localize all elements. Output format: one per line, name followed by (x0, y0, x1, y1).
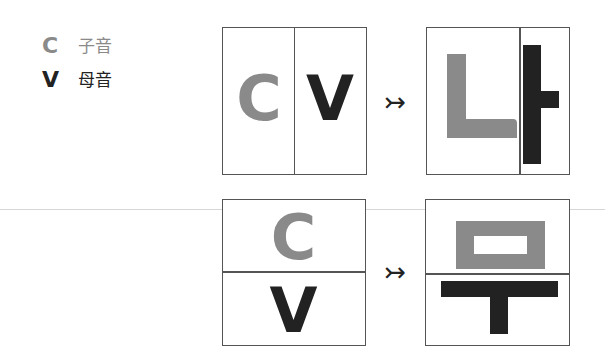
maps-to-arrow-icon: ↣ (375, 257, 415, 287)
syllable-na-output-box (426, 27, 570, 175)
cv-vertical-input-box: C V (222, 199, 366, 346)
box-divider (426, 273, 569, 275)
a-horizontal-stroke (541, 91, 559, 108)
syllable-mu-output-box (425, 199, 570, 346)
legend-item-consonant: C 子音 (40, 33, 130, 59)
mieum-inner-counter (474, 236, 527, 254)
box-divider (519, 28, 521, 174)
u-vertical-stroke (490, 297, 508, 334)
consonant-letter: C (227, 68, 291, 130)
legend-item-vowel: V 母音 (40, 67, 130, 93)
vowel-letter: V (296, 68, 364, 130)
vowel-letter: V (223, 280, 364, 342)
u-horizontal-stroke (441, 281, 558, 297)
legend-label-vowel: 母音 (78, 68, 112, 92)
jamo-mieum-shape (456, 221, 545, 269)
consonant-letter: C (223, 207, 364, 269)
a-vertical-stroke (523, 45, 541, 164)
cv-horizontal-input-box: C V (222, 27, 367, 175)
legend-key-consonant: C (42, 33, 58, 59)
maps-to-arrow-icon: ↣ (375, 87, 415, 117)
legend-label-consonant: 子音 (78, 34, 112, 58)
nieun-horizontal-stroke (447, 119, 517, 138)
box-divider (294, 28, 296, 174)
legend-key-vowel: V (42, 67, 59, 93)
